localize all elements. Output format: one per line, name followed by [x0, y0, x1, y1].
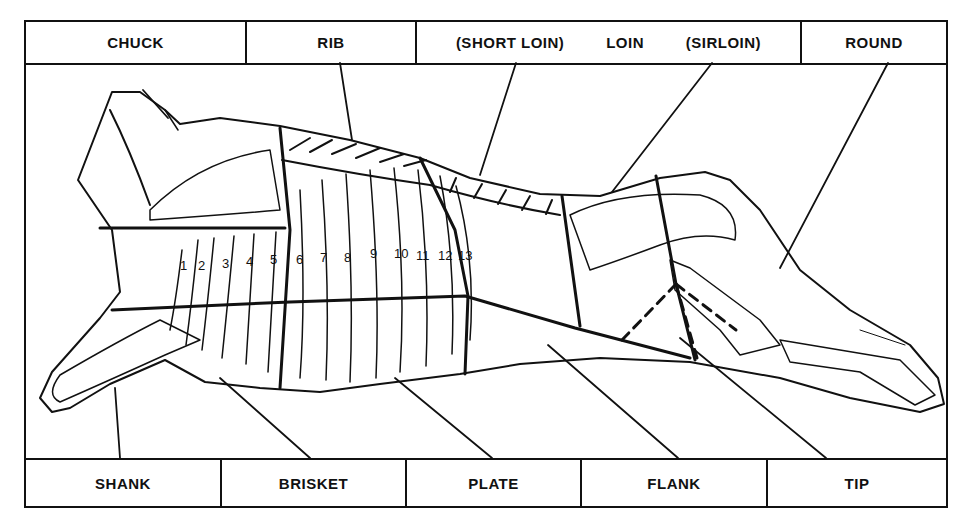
- rib-number: 4: [246, 254, 253, 269]
- rib-number: 11: [416, 248, 430, 263]
- rib-number: 8: [344, 250, 351, 265]
- rib-number: 3: [222, 256, 229, 271]
- hind-shank-bone: [780, 340, 935, 405]
- foreleg-bone: [53, 320, 201, 402]
- rib-number: 10: [394, 246, 408, 261]
- pelvis: [570, 194, 736, 270]
- femur: [670, 260, 780, 355]
- rib-number: 5: [270, 252, 277, 267]
- scapula: [150, 150, 280, 220]
- rib-number: 1: [180, 258, 187, 273]
- beef-carcass-illustration: 1 2 3 4 5 6 7 8 9 10 11 12 13: [0, 0, 968, 528]
- rib-number: 9: [370, 246, 377, 261]
- rib-number: 13: [458, 248, 472, 263]
- rib-number: 12: [438, 248, 452, 263]
- spine: [110, 110, 560, 215]
- rib-bones: [170, 168, 471, 382]
- rib-number: 6: [296, 252, 303, 267]
- rib-number: 7: [320, 250, 327, 265]
- rib-number: 2: [198, 258, 205, 273]
